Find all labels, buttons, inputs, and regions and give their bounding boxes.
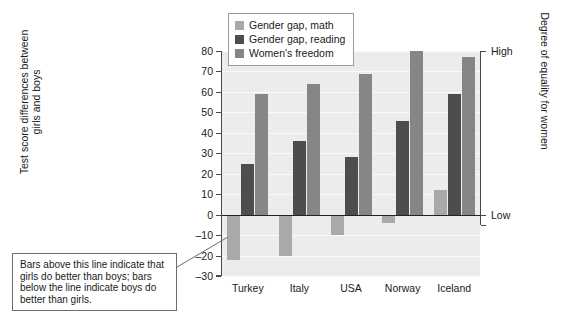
legend-item-label: Gender gap, reading	[249, 34, 345, 45]
y-axis-tick-label: 60	[201, 87, 213, 97]
chart-figure: 80706050403020100–10–20–30 HighLow Test …	[0, 0, 569, 327]
legend-item-label: Gender gap, math	[249, 20, 334, 31]
bar	[307, 84, 320, 215]
legend-item: Gender gap, math	[235, 19, 345, 32]
bar	[396, 121, 409, 215]
y-axis-tick	[216, 174, 221, 175]
y-axis-tick	[216, 153, 221, 154]
bar	[345, 157, 358, 214]
bar	[279, 215, 292, 256]
x-axis-label-norway: Norway	[377, 283, 429, 294]
secondary-axis-tick	[481, 215, 486, 216]
y-axis-tick	[216, 276, 221, 277]
y-axis-tick	[216, 256, 221, 257]
bar	[359, 74, 372, 215]
y-axis-tick-label: –10	[195, 230, 213, 240]
y-axis-tick-label: 80	[201, 46, 213, 56]
y-axis-tick	[216, 92, 221, 93]
x-axis-label-usa: USA	[325, 283, 377, 294]
bar	[293, 141, 306, 215]
bar	[255, 94, 268, 215]
legend-item: Women's freedom	[235, 47, 345, 60]
gridline	[222, 92, 480, 93]
y-axis-tick-label: –20	[195, 251, 213, 261]
bar	[241, 164, 254, 215]
y-axis-tick-label: 10	[201, 189, 213, 199]
legend-swatch-icon	[235, 49, 244, 58]
gridline	[222, 276, 480, 277]
secondary-axis-tick-label: Low	[491, 210, 510, 220]
legend-swatch-icon	[235, 35, 244, 44]
secondary-axis-bottom-cap	[481, 225, 486, 226]
secondary-y-axis-spine	[480, 51, 481, 225]
secondary-axis-tick-label: High	[491, 46, 513, 56]
secondary-axis-tick	[481, 51, 486, 52]
annotation-callout: Bars above this line indicate that girls…	[12, 253, 177, 311]
x-axis-label-italy: Italy	[274, 283, 326, 294]
gridline	[222, 71, 480, 72]
y-axis-tick-label: 0	[207, 210, 213, 220]
x-axis-label-turkey: Turkey	[222, 283, 274, 294]
legend-item-label: Women's freedom	[249, 48, 334, 59]
y-axis-tick	[216, 133, 221, 134]
y-axis-tick-label: –30	[195, 271, 213, 281]
chart-legend: Gender gap, mathGender gap, readingWomen…	[228, 13, 354, 66]
y-axis-tick	[216, 215, 221, 216]
gridline	[222, 256, 480, 257]
y-axis-spine	[221, 51, 222, 276]
bar	[331, 215, 344, 235]
y-axis-tick	[216, 112, 221, 113]
y-axis-tick	[216, 51, 221, 52]
bar	[410, 51, 423, 215]
bar	[462, 57, 475, 215]
bar	[448, 94, 461, 215]
bar	[382, 215, 395, 223]
y-axis-tick-label: 50	[201, 107, 213, 117]
y-axis-tick	[216, 194, 221, 195]
plot-area	[222, 51, 480, 276]
secondary-y-axis-title: Degree of equality for women	[539, 0, 551, 176]
y-axis-tick-label: 70	[201, 66, 213, 76]
bar	[227, 215, 240, 260]
y-axis-tick	[216, 235, 221, 236]
bar	[434, 190, 447, 215]
y-axis-tick-label: 20	[201, 169, 213, 179]
legend-swatch-icon	[235, 21, 244, 30]
y-axis-tick	[216, 71, 221, 72]
x-axis-label-iceland: Iceland	[428, 283, 480, 294]
zero-line	[222, 215, 480, 216]
y-axis-tick-label: 30	[201, 148, 213, 158]
y-axis-tick-label: 40	[201, 128, 213, 138]
legend-item: Gender gap, reading	[235, 33, 345, 46]
gridline	[222, 235, 480, 236]
y-axis-title: Test score differences between girls and…	[18, 2, 42, 202]
